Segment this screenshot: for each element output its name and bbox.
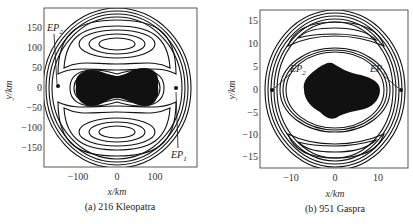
y-axis-label-b: y/km <box>226 81 237 101</box>
ep1-point-a <box>174 86 178 90</box>
panel-a: EP2 EP1 150 100 50 0 −50 −100 −150 −100 … <box>3 8 197 213</box>
svg-text:0: 0 <box>333 172 338 183</box>
svg-text:5: 5 <box>253 61 258 72</box>
svg-text:100: 100 <box>148 171 163 182</box>
ep1-point-b <box>399 88 403 92</box>
ep2-point-a <box>56 84 60 88</box>
asteroid-body-gaspra <box>304 63 380 119</box>
x-axis-ticks-a: −100 0 100 <box>68 171 163 182</box>
svg-text:−100: −100 <box>68 171 89 182</box>
svg-text:−50: −50 <box>26 102 42 113</box>
x-axis-label-a: x/km <box>107 186 127 197</box>
svg-text:0: 0 <box>253 84 258 95</box>
svg-text:−10: −10 <box>283 172 299 183</box>
svg-text:0: 0 <box>115 171 120 182</box>
ep1-label-b: EP1 <box>369 63 386 77</box>
svg-text:−15: −15 <box>242 151 258 162</box>
caption-b: (b) 951 Gaspra <box>305 203 366 215</box>
panel-b: EP2 EP1 15 10 5 0 −5 −10 −15 −10 0 10 x/… <box>226 10 408 215</box>
ep2-point-b <box>270 88 274 92</box>
svg-text:15: 15 <box>248 15 258 26</box>
svg-text:−100: −100 <box>21 122 42 133</box>
ep2-label-b: EP2 <box>289 63 306 77</box>
svg-text:−5: −5 <box>247 107 258 118</box>
svg-text:10: 10 <box>248 38 258 49</box>
caption-a: (a) 216 Kleopatra <box>85 201 156 213</box>
svg-text:50: 50 <box>32 62 42 73</box>
ep1-label-a: EP1 <box>170 149 187 163</box>
svg-text:−10: −10 <box>242 129 258 140</box>
svg-text:100: 100 <box>27 42 42 53</box>
svg-text:−150: −150 <box>21 142 42 153</box>
svg-text:150: 150 <box>27 22 42 33</box>
y-axis-ticks-b: 15 10 5 0 −5 −10 −15 <box>242 15 258 162</box>
ep2-label-a: EP2 <box>46 22 63 36</box>
svg-text:0: 0 <box>37 82 42 93</box>
y-axis-ticks-a: 150 100 50 0 −50 −100 −150 <box>21 22 42 153</box>
figure: EP2 EP1 150 100 50 0 −50 −100 −150 −100 … <box>0 0 413 224</box>
y-axis-label-a: y/km <box>3 81 14 101</box>
x-axis-label-b: x/km <box>325 188 345 199</box>
x-axis-ticks-b: −10 0 10 <box>283 172 383 183</box>
svg-text:10: 10 <box>373 172 383 183</box>
